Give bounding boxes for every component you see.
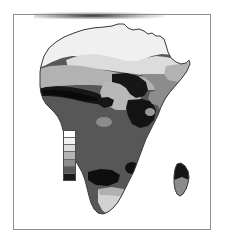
africa-map-svg[interactable] xyxy=(0,0,225,251)
region-cape-dot xyxy=(122,208,125,211)
legend-cell-2[interactable] xyxy=(64,145,75,152)
region-gabon-oval xyxy=(96,117,112,127)
legend-cell-6[interactable] xyxy=(64,174,75,180)
continent-choropleth-layer xyxy=(0,0,225,251)
legend-cell-3[interactable] xyxy=(64,152,75,159)
figure-canvas xyxy=(0,0,225,251)
legend-color-scale[interactable] xyxy=(63,130,76,181)
legend-cell-1[interactable] xyxy=(64,138,75,145)
legend-cell-0[interactable] xyxy=(64,131,75,138)
legend-cell-5[interactable] xyxy=(64,167,75,174)
region-east-small-oval xyxy=(145,108,155,116)
africa-map[interactable] xyxy=(0,0,225,251)
legend-cell-4[interactable] xyxy=(64,160,75,167)
